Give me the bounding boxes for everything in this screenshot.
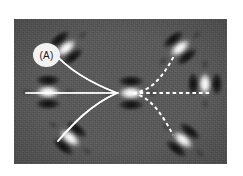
dashed-trace-lower-right bbox=[133, 93, 173, 135]
panel-label-text: (A) bbox=[40, 50, 54, 61]
solid-trace-lower-left bbox=[58, 93, 117, 141]
figure-panel-a: (A) bbox=[0, 0, 243, 176]
dashed-trace-group bbox=[133, 56, 210, 135]
panel-label-badge: (A) bbox=[33, 43, 60, 67]
solid-trace-upper-left bbox=[53, 52, 117, 93]
dashed-trace-upper-right bbox=[133, 56, 174, 93]
grayscale-image-panel: (A) bbox=[14, 19, 227, 164]
trace-overlay bbox=[14, 19, 227, 164]
